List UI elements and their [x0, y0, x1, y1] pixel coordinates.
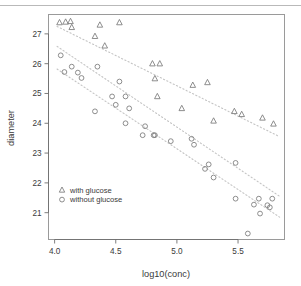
y-tick-label: 27 [32, 30, 42, 39]
data-point [211, 175, 216, 180]
y-axis: 21222324252627 [32, 30, 48, 218]
data-point [127, 106, 132, 111]
data-point [270, 196, 275, 201]
data-point [179, 105, 185, 110]
legend-item-label: without glucose [69, 195, 122, 204]
data-point [95, 64, 100, 69]
x-tick-label: 4.0 [49, 247, 61, 256]
x-tick-label: 5.5 [232, 247, 244, 256]
data-point [233, 196, 238, 201]
y-tick-label: 25 [32, 89, 42, 98]
data-point [68, 18, 74, 23]
y-tick-label: 23 [32, 149, 42, 158]
x-tick-label: 4.5 [110, 247, 122, 256]
data-point [206, 162, 211, 167]
legend-item-label: with glucose [69, 186, 112, 195]
data-point [117, 19, 123, 24]
legend-triangle-icon [59, 187, 64, 192]
data-point [192, 142, 197, 147]
x-axis: 4.04.55.05.5 [49, 240, 244, 256]
data-point [155, 93, 161, 98]
data-point [79, 76, 84, 81]
data-point [69, 24, 75, 29]
legend: with glucosewithout glucose [59, 186, 122, 205]
plot-frame [49, 15, 285, 240]
y-tick-label: 26 [32, 60, 42, 69]
x-tick-label: 5.0 [171, 247, 183, 256]
data-point [258, 211, 263, 216]
trendline-upper-without-glucose [57, 46, 280, 196]
series-with-glucose-points [57, 18, 277, 126]
data-point [57, 19, 63, 24]
data-point [232, 108, 238, 113]
scatter-plot-figure: 21222324252627 4.04.55.05.5 diameter log… [0, 0, 301, 286]
data-point [233, 161, 238, 166]
x-axis-title: log10(conc) [142, 269, 190, 279]
data-point [93, 109, 98, 114]
y-axis-title: diameter [6, 110, 16, 146]
y-tick-label: 24 [32, 119, 42, 128]
data-point [256, 196, 261, 201]
data-point [110, 94, 115, 99]
legend-circle-icon [60, 197, 65, 202]
trendline-with-glucose [57, 26, 280, 136]
data-point [69, 64, 74, 69]
y-tick-label: 21 [32, 209, 42, 218]
data-point [113, 102, 118, 107]
data-point [245, 231, 250, 236]
data-point [58, 53, 63, 58]
plot-svg: 21222324252627 4.04.55.05.5 diameter log… [0, 0, 301, 286]
data-point [123, 94, 128, 99]
data-point [190, 82, 196, 87]
data-point [117, 79, 122, 84]
data-point [205, 79, 211, 84]
y-tick-label: 22 [32, 179, 42, 188]
data-point [140, 133, 145, 138]
data-point [102, 43, 108, 48]
data-point [150, 61, 156, 66]
data-point [92, 33, 98, 38]
data-point [123, 121, 128, 126]
data-point [239, 111, 245, 116]
data-point [157, 61, 163, 66]
data-point [260, 115, 266, 120]
data-point [75, 70, 80, 75]
data-point [252, 202, 257, 207]
data-point [271, 121, 277, 126]
data-point [168, 139, 173, 144]
data-point [211, 118, 217, 123]
data-point [97, 22, 103, 27]
